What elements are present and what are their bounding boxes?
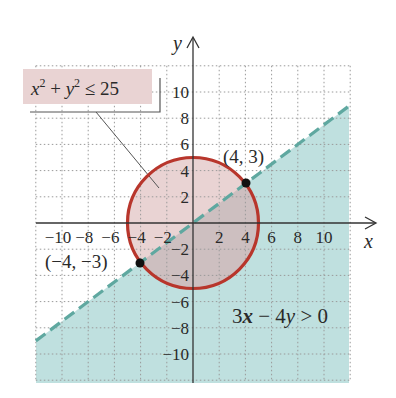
x-tick-label: 6 <box>267 228 276 247</box>
x-tick-label: −6 <box>101 228 119 247</box>
point-neg4-neg3 <box>136 259 145 268</box>
y-tick-label: 8 <box>181 109 190 128</box>
y-tick-label: −4 <box>171 266 190 285</box>
x-tick-label: 10 <box>316 228 333 247</box>
x-tick-label: −8 <box>75 228 93 247</box>
x-tick-label: −10 <box>45 228 72 247</box>
y-tick-label: 10 <box>172 83 189 102</box>
y-tick-label: −2 <box>171 240 189 259</box>
halfplane-inequality-label: 3x − 4y > 0 <box>232 304 328 328</box>
inequality-graph: x2 + y2 ≤ 25 x y −10−8−6−4−2246810 −10−8… <box>0 0 396 398</box>
point-4-3 <box>242 179 251 188</box>
x-tick-label: −2 <box>154 228 172 247</box>
y-tick-label: −8 <box>171 319 189 338</box>
x-tick-label: −4 <box>128 228 147 247</box>
disk-leader-line <box>96 112 159 188</box>
y-tick-label: 2 <box>181 188 190 207</box>
x-tick-label: 8 <box>294 228 303 247</box>
y-axis-label: y <box>171 32 182 55</box>
y-tick-label: −10 <box>162 345 189 364</box>
y-tick-label: 6 <box>181 135 190 154</box>
y-tick-label: −6 <box>171 293 189 312</box>
x-tick-label: 2 <box>215 228 224 247</box>
x-axis-label: x <box>363 230 373 252</box>
point-4-3-label: (4, 3) <box>223 146 264 168</box>
point-neg4-neg3-label: (−4, −3) <box>45 251 108 273</box>
y-tick-label: 4 <box>181 162 190 181</box>
x-tick-label: 4 <box>241 228 250 247</box>
